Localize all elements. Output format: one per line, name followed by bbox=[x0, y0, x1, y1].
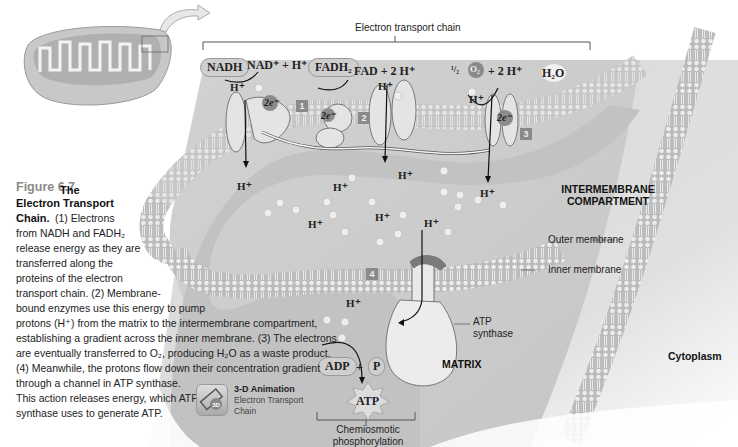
complex-3-badge: 3 bbox=[520, 128, 532, 140]
animation-title: 3-D Animation bbox=[234, 384, 295, 394]
oxygen-molecule: O₂ bbox=[470, 64, 480, 74]
proton-label: H⁺ bbox=[424, 217, 439, 230]
caption-line: transferred along the bbox=[16, 256, 113, 272]
nadh-molecule: NADH bbox=[200, 58, 249, 77]
proton-label: H⁺ bbox=[378, 80, 393, 93]
proton-label: H⁺ bbox=[230, 81, 245, 94]
atp-molecule: ATP bbox=[356, 394, 379, 409]
half-coefficient: ¹/₂ bbox=[451, 64, 459, 74]
figure-title: Electron Transport bbox=[16, 197, 114, 209]
figure-title: The bbox=[60, 184, 80, 196]
proton-label: H⁺ bbox=[346, 297, 361, 310]
matrix-label: MATRIX bbox=[442, 358, 481, 370]
caption-line: release energy as they are bbox=[16, 241, 140, 257]
complex-4-badge: 4 bbox=[366, 268, 378, 280]
phosphate-molecule: P bbox=[368, 357, 385, 376]
figure-title: Chain. bbox=[16, 212, 50, 224]
electron-pair-label: 2e⁻ bbox=[264, 97, 278, 108]
3d-animation-link[interactable]: 3D 3-D Animation Electron Transport Chai… bbox=[196, 384, 316, 418]
electron-pair-label: 2e⁻ bbox=[497, 112, 511, 123]
caption-line: (1) Electrons bbox=[55, 211, 115, 227]
complex-1-badge: 1 bbox=[296, 100, 308, 112]
nad-products: NAD⁺ + H⁺ bbox=[247, 58, 307, 73]
caption-line: proteins of the electron bbox=[16, 271, 123, 287]
caption-line: through a channel in ATP synthase. bbox=[16, 376, 181, 392]
fad-products: FAD + 2 H⁺ bbox=[354, 64, 415, 79]
caption-line: are eventually transferred to O₂, produc… bbox=[16, 346, 331, 362]
inner-membrane-label: Inner membrane bbox=[548, 264, 621, 275]
proton-label: H⁺ bbox=[375, 211, 390, 224]
proton-label: H⁺ bbox=[480, 187, 495, 200]
water-molecule: H₂O bbox=[542, 66, 564, 81]
plus-sign: + bbox=[356, 360, 363, 375]
complex-2-badge: 2 bbox=[358, 112, 370, 124]
etc-label: Electron transport chain bbox=[355, 22, 461, 33]
proton-label: H⁺ bbox=[333, 181, 348, 194]
cytoplasm-label: Cytoplasm bbox=[668, 350, 722, 362]
outer-membrane-label: Outer membrane bbox=[548, 234, 624, 245]
caption-line: protons (H⁺) from the matrix to the inte… bbox=[16, 316, 317, 332]
3d-animation-icon: 3D bbox=[196, 384, 228, 416]
atp-synthase-label: ATP synthase bbox=[473, 316, 523, 340]
caption-line: from NADH and FADH₂ bbox=[16, 226, 125, 242]
caption-line: establishing a gradient across the inner… bbox=[16, 331, 337, 347]
animation-subtitle: Electron Transport Chain bbox=[234, 395, 314, 417]
caption-line: transport chain. (2) Membrane- bbox=[16, 286, 161, 302]
caption-line: This action releases energy, which ATP bbox=[16, 391, 198, 407]
chemiosmotic-label: Chemiosmotic phosphorylation bbox=[328, 424, 408, 447]
electron-pair-label: 2e⁻ bbox=[321, 110, 335, 121]
caption-line: (4) Meanwhile, the protons flow down the… bbox=[16, 361, 320, 377]
proton-label: H⁺ bbox=[308, 218, 323, 231]
intermembrane-label: INTERMEMBRANE COMPARTMENT bbox=[548, 183, 668, 207]
proton-label: H⁺ bbox=[398, 169, 413, 182]
figure-caption: Figure 6.7 bbox=[16, 180, 246, 196]
proton-label: H⁺ bbox=[469, 93, 484, 106]
o2-protons: + 2 H⁺ bbox=[488, 64, 522, 79]
caption-line: synthase uses to generate ATP. bbox=[16, 406, 163, 422]
caption-line: bound enzymes use this energy to pump bbox=[16, 301, 205, 317]
svg-text:3D: 3D bbox=[212, 402, 220, 408]
fadh2-molecule: FADH₂ bbox=[308, 58, 359, 77]
